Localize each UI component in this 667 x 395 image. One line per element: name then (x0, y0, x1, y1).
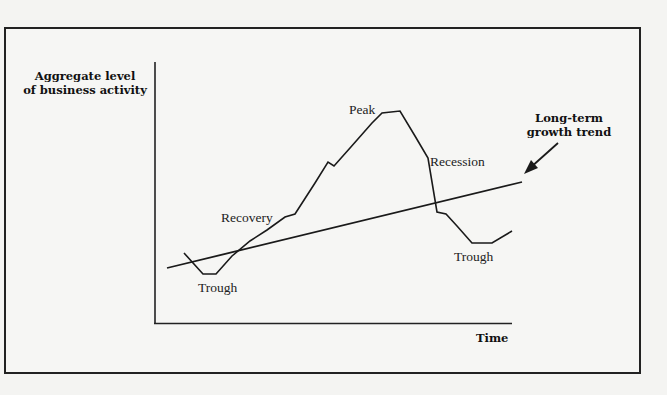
diagram-canvas (0, 0, 667, 395)
label-trough-1: Trough (198, 281, 237, 295)
y-axis-label-line1: Aggregate level (18, 69, 152, 83)
y-axis-label: Aggregate level of business activity (18, 69, 152, 97)
label-recovery: Recovery (221, 211, 273, 225)
y-axis-label-line2: of business activity (18, 83, 152, 97)
trend-label-line2: growth trend (522, 125, 616, 139)
label-trough-2: Trough (454, 250, 493, 264)
label-peak: Peak (349, 103, 375, 117)
x-axis-label: Time (476, 331, 508, 345)
business-cycle-diagram: Aggregate level of business activity Tim… (0, 0, 667, 395)
trend-label: Long-term growth trend (522, 111, 616, 139)
trend-label-line1: Long-term (522, 111, 616, 125)
label-recession: Recession (430, 155, 485, 169)
